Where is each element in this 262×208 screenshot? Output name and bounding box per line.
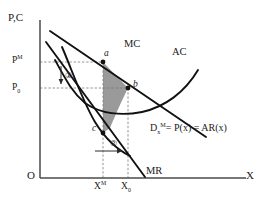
y-axis-label: P,C	[8, 12, 23, 23]
y-tick-pm: PM	[12, 56, 23, 66]
x-tick-xm-sup: M	[101, 180, 106, 186]
point-c-label: c	[92, 124, 96, 134]
origin-label: O	[27, 170, 35, 181]
annotation-two-label: ②	[110, 140, 117, 148]
x-tick-xm: XM	[94, 182, 106, 192]
x-tick-x0-sub: 0	[128, 187, 131, 193]
mc-curve-label: MC	[124, 39, 140, 50]
y-tick-p0-sub: 0	[17, 88, 20, 94]
x-tick-xm-base: X	[94, 181, 101, 191]
mr-curve-label: MR	[146, 166, 162, 177]
y-tick-p0: P0	[12, 83, 20, 93]
shaded-region	[103, 62, 128, 133]
demand-equation-label: DxM= P(x) = AR(x)	[150, 123, 227, 133]
annotation-one-label: ①	[65, 72, 72, 80]
ac-curve-label: AC	[172, 47, 187, 58]
y-tick-pm-sup: M	[17, 54, 22, 60]
x-tick-x0: X0	[121, 182, 131, 192]
point-a-label: a	[104, 49, 109, 59]
point-c-marker	[101, 131, 106, 136]
point-a-marker	[101, 60, 106, 65]
point-b-label: b	[133, 80, 138, 90]
diagram-svg	[0, 0, 262, 208]
figure-canvas: P,C X O PM P0 XM X0 MC AC MR DxM= P(x) =…	[0, 0, 262, 208]
x-axis-label: X	[246, 170, 254, 181]
demand-equation-sub: x	[157, 128, 160, 135]
point-b-marker	[126, 86, 131, 91]
x-tick-x0-base: X	[121, 181, 128, 191]
demand-equation-rest: = P(x) = AR(x)	[166, 122, 227, 133]
